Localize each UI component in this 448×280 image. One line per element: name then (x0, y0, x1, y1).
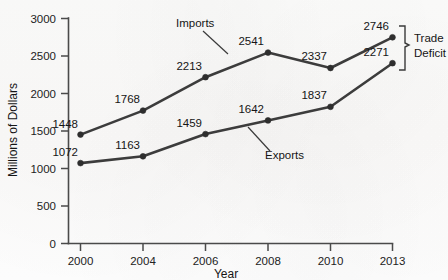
exports-value-label-2006: 1459 (176, 117, 202, 129)
imports-value-label-2004: 1768 (114, 93, 140, 105)
x-tick-label-2010: 2010 (318, 255, 344, 267)
imports-point-2008 (265, 50, 271, 56)
x-tick-label-2006: 2006 (193, 255, 219, 267)
y-tick-label-500: 500 (37, 200, 56, 212)
exports-value-label-2013: 2271 (363, 46, 389, 58)
exports-point-2013 (390, 60, 396, 66)
exports-point-2000 (78, 160, 84, 166)
x-tick-label-2008: 2008 (255, 255, 281, 267)
trade-deficit-bracket (399, 26, 409, 70)
imports-point-2013 (390, 34, 396, 40)
exports-value-label-2008: 1642 (238, 103, 264, 115)
imports-point-2000 (78, 132, 84, 138)
x-tick-label-2000: 2000 (68, 255, 94, 267)
exports-series-callout-label: Exports (265, 149, 304, 161)
imports-point-2006 (203, 74, 209, 80)
trade-deficit-label-line2: Deficit (414, 47, 447, 59)
imports-value-label-2006: 2213 (176, 60, 202, 72)
exports-value-label-2000: 1072 (52, 146, 78, 158)
imports-value-label-2000: 1448 (52, 118, 78, 130)
exports-point-2010 (328, 104, 334, 110)
imports-line (81, 37, 393, 134)
series-imports (78, 34, 396, 137)
x-axis (69, 244, 393, 252)
chart-figure: 3000 2500 2000 1500 1000 500 0 2000 2004… (0, 0, 448, 280)
y-axis-title: Millions of Dollars (6, 83, 20, 177)
imports-value-label-2010: 2337 (301, 50, 327, 62)
exports-value-label-2004: 1163 (115, 139, 140, 151)
imports-series-callout-label: Imports (176, 17, 215, 29)
y-tick-label-0: 0 (50, 238, 56, 250)
y-tick-label-1000: 1000 (30, 163, 56, 175)
x-axis-title: Year (214, 267, 238, 280)
x-tick-label-2013: 2013 (380, 255, 406, 267)
imports-callout-leader-line (203, 31, 228, 54)
imports-value-label-2008: 2541 (238, 35, 264, 47)
x-tick-label-2004: 2004 (130, 255, 156, 267)
exports-point-2004 (140, 153, 146, 159)
exports-point-2008 (265, 118, 271, 124)
exports-value-label-2010: 1837 (301, 89, 327, 101)
line-chart-canvas: 3000 2500 2000 1500 1000 500 0 2000 2004… (0, 0, 448, 280)
y-tick-label-3000: 3000 (30, 13, 56, 25)
imports-value-label-2013: 2746 (363, 20, 389, 32)
trade-deficit-label-line1: Trade (414, 32, 444, 44)
exports-point-2006 (203, 131, 209, 137)
y-tick-label-2500: 2500 (30, 50, 56, 62)
imports-point-2004 (140, 108, 146, 114)
y-axis (61, 18, 69, 244)
exports-callout-leader-line (248, 127, 270, 151)
imports-point-2010 (328, 65, 334, 71)
y-tick-label-2000: 2000 (30, 88, 56, 100)
